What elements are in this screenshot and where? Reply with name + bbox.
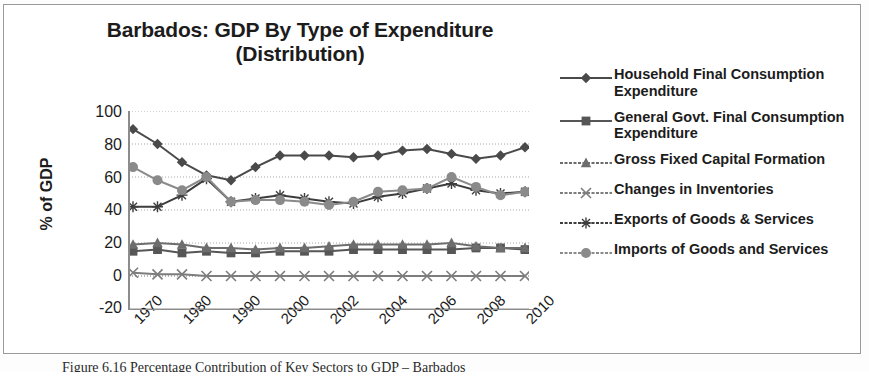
circle-marker-icon (349, 197, 359, 207)
square-marker-icon (558, 112, 614, 130)
star-marker-icon (558, 214, 614, 232)
y-tick-label: 0 (66, 267, 122, 285)
diamond-marker-icon (397, 145, 407, 155)
diamond-marker-icon (581, 73, 591, 83)
diamond-marker-icon (495, 150, 505, 160)
legend-item[interactable]: Exports of Goods & Services (558, 211, 858, 232)
circle-marker-icon (300, 197, 310, 207)
circle-marker-icon (447, 172, 457, 182)
figure-container: Barbados: GDP By Type of Expenditure (Di… (0, 0, 869, 378)
circle-marker-icon (422, 184, 432, 194)
legend-item[interactable]: Gross Fixed Capital Formation (558, 151, 858, 172)
y-tick-label: -20 (66, 299, 122, 317)
square-marker-icon (178, 249, 187, 258)
circle-marker-icon (153, 175, 163, 185)
diamond-marker-icon (471, 154, 481, 164)
diamond-marker-icon (129, 124, 138, 134)
legend-item[interactable]: Imports of Goods and Services (558, 241, 858, 262)
plot-area (128, 111, 528, 309)
y-tick-label: 20 (66, 234, 122, 252)
series-0 (129, 124, 529, 186)
circle-marker-icon (129, 162, 138, 172)
legend-item[interactable]: General Govt. Final Consumption Expendit… (558, 109, 858, 143)
diamond-marker-icon (422, 144, 432, 154)
y-tick-label: 60 (66, 169, 122, 187)
circle-marker-icon (558, 244, 614, 262)
caption-clip-mask (0, 372, 869, 378)
circle-marker-icon (471, 182, 481, 192)
legend-item[interactable]: Changes in Inventories (558, 181, 858, 202)
diamond-marker-icon (520, 142, 529, 152)
diamond-marker-icon (299, 150, 309, 160)
chart-title-line-2: (Distribution) (60, 42, 540, 66)
legend-item-label: Changes in Inventories (614, 181, 774, 198)
circle-marker-icon (275, 195, 285, 205)
circle-marker-icon (251, 195, 261, 205)
legend-item-label: General Govt. Final Consumption Expendit… (614, 109, 846, 143)
diamond-marker-icon (558, 69, 614, 87)
diamond-marker-icon (348, 152, 358, 162)
diamond-marker-icon (446, 149, 456, 159)
circle-marker-icon (496, 190, 506, 200)
chart-legend: Household Final Consumption ExpenditureG… (558, 66, 858, 271)
circle-marker-icon (324, 200, 334, 210)
star-marker-icon (152, 201, 163, 212)
legend-item-label: Household Final Consumption Expenditure (614, 66, 846, 100)
legend-item-label: Imports of Goods and Services (614, 241, 828, 258)
legend-item-label: Gross Fixed Capital Formation (614, 151, 825, 168)
series-5 (129, 162, 529, 210)
circle-marker-icon (398, 185, 408, 195)
diamond-marker-icon (250, 162, 260, 172)
star-marker-icon (581, 218, 592, 229)
x-axis-line (128, 309, 538, 310)
diamond-marker-icon (324, 150, 334, 160)
circle-marker-icon (226, 197, 236, 207)
circle-marker-icon (373, 187, 383, 197)
chart-title-line-1: Barbados: GDP By Type of Expenditure (107, 18, 493, 41)
circle-marker-icon (202, 172, 212, 182)
legend-item[interactable]: Household Final Consumption Expenditure (558, 66, 858, 100)
series-3 (129, 268, 529, 281)
y-tick-label: 80 (66, 136, 122, 154)
square-marker-icon (582, 116, 591, 125)
y-axis-tick-labels: 100 80 60 40 20 0 -20 (62, 0, 122, 378)
legend-item-label: Exports of Goods & Services (614, 211, 814, 228)
diamond-marker-icon (373, 150, 383, 160)
circle-marker-icon (581, 248, 591, 258)
y-axis-title: % of GDP (38, 139, 56, 249)
chart-plot-svg (129, 111, 529, 309)
diamond-marker-icon (275, 150, 285, 160)
circle-marker-icon (177, 185, 187, 195)
star-marker-icon (129, 201, 139, 212)
y-tick-label: 40 (66, 201, 122, 219)
cross-marker-icon (558, 184, 614, 202)
triangle-marker-icon (558, 154, 614, 172)
y-tick-label: 100 (66, 103, 122, 121)
chart-title: Barbados: GDP By Type of Expenditure (Di… (60, 18, 540, 65)
